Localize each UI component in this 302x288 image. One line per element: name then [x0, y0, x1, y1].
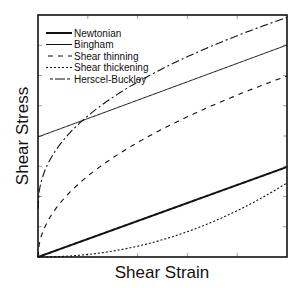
legend-label-shear-thickening: Shear thickening [74, 62, 149, 73]
legend-label-herschel-bulkley: Herscel-Buckley [74, 74, 146, 85]
y-axis-label: Shear Stress [13, 87, 32, 185]
curve-shear-thickening [38, 183, 287, 257]
legend-label-bingham: Bingham [74, 39, 113, 50]
x-axis-label: Shear Strain [115, 263, 210, 282]
legend: Newtonian Bingham Shear thinning Shear t… [46, 28, 149, 85]
legend-label-shear-thinning: Shear thinning [74, 51, 139, 62]
rheology-chart: Newtonian Bingham Shear thinning Shear t… [0, 0, 302, 288]
legend-label-newtonian: Newtonian [74, 28, 121, 39]
curve-shear-thinning [38, 76, 287, 257]
curve-newtonian [38, 167, 287, 257]
